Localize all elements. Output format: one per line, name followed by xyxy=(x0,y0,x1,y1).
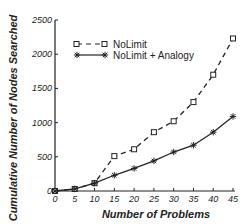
legend: NoLimit NoLimit + Analogy xyxy=(74,39,194,61)
square-marker-icon xyxy=(151,130,156,135)
x-tick-label: 25 xyxy=(148,194,160,204)
y-tick-label: 1000 xyxy=(32,118,52,128)
y-axis-title: Cumulative Number of Nodes Searched xyxy=(7,14,19,221)
asterisk-marker-icon xyxy=(111,172,117,178)
y-tick-label: 0 xyxy=(47,186,52,196)
x-tick-label: 0 xyxy=(52,194,57,204)
asterisk-marker-icon xyxy=(91,180,97,186)
square-marker-icon xyxy=(102,42,107,47)
y-tick-label: 1500 xyxy=(32,83,52,93)
asterisk-marker-icon xyxy=(151,158,157,164)
x-tick-label: 40 xyxy=(208,194,218,204)
y-tick-label: 500 xyxy=(37,152,52,162)
square-marker-icon xyxy=(112,154,117,159)
legend-label: NoLimit + Analogy xyxy=(113,50,194,61)
legend-item-nolimit-analogy: NoLimit + Analogy xyxy=(74,50,194,61)
asterisk-marker-icon xyxy=(170,149,176,155)
x-tick-label: 20 xyxy=(128,194,139,204)
asterisk-marker-icon xyxy=(230,113,236,119)
legend-label: NoLimit xyxy=(113,39,147,50)
x-tick-label: 5 xyxy=(72,194,78,204)
x-tick-label: 15 xyxy=(109,194,120,204)
square-marker-icon xyxy=(74,42,79,47)
series-nolimit-analogy xyxy=(52,113,236,194)
y-tick-label: 2500 xyxy=(31,15,52,25)
asterisk-marker-icon xyxy=(102,52,108,58)
asterisk-marker-icon xyxy=(190,142,196,148)
square-marker-icon xyxy=(231,36,236,41)
x-tick-label: 45 xyxy=(228,194,239,204)
y-axis-ticks: 05001000150020002500 xyxy=(31,15,58,196)
asterisk-marker-icon xyxy=(210,129,216,135)
x-tick-label: 30 xyxy=(169,194,179,204)
x-axis-title: Number of Problems xyxy=(102,208,210,220)
asterisk-marker-icon xyxy=(131,165,137,171)
y-tick-label: 2000 xyxy=(31,49,52,59)
asterisk-marker-icon xyxy=(72,186,78,192)
asterisk-marker-icon xyxy=(74,52,80,58)
x-tick-label: 35 xyxy=(188,194,199,204)
legend-item-nolimit: NoLimit xyxy=(74,39,147,50)
square-marker-icon xyxy=(132,147,137,152)
x-tick-label: 10 xyxy=(90,194,100,204)
square-marker-icon xyxy=(171,119,176,124)
asterisk-marker-icon xyxy=(52,188,58,194)
square-marker-icon xyxy=(191,100,196,105)
square-marker-icon xyxy=(211,72,216,77)
chart: 05001000150020002500 051015202530354045 … xyxy=(0,0,250,224)
